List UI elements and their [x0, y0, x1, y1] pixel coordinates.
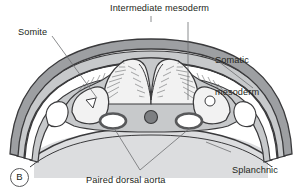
label-somatic-mesoderm-line1: Somatic [215, 55, 259, 66]
dorsal-aorta-left [100, 114, 126, 129]
somite-right-cavity [205, 96, 215, 106]
label-somatic-mesoderm-line2: mesoderm [215, 87, 259, 98]
label-intermediate-mesoderm: Intermediate mesoderm [110, 3, 209, 14]
label-splanchnic-mesoderm-line1: Splanchnic [232, 165, 278, 176]
dorsal-aorta-right [176, 114, 202, 129]
lateral-recess-left [46, 102, 68, 127]
label-splanchnic-mesoderm: Splanchnic mesoderm [232, 144, 278, 195]
label-somatic-mesoderm: Somatic mesoderm [215, 34, 259, 119]
notochord [145, 111, 158, 124]
label-paired-dorsal-aorta: Paired dorsal aorta [86, 175, 166, 186]
panel-letter-badge: B [10, 168, 29, 187]
label-somite: Somite [18, 27, 47, 38]
embryo-cross-section-figure: Intermediate mesoderm Somite Somatic mes… [0, 0, 302, 195]
